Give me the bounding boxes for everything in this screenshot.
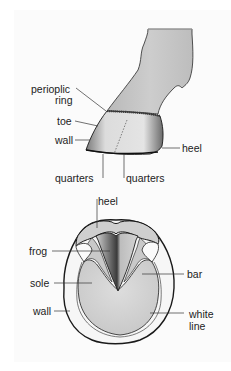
- label-bar: bar: [187, 268, 203, 280]
- label-line: line: [189, 320, 206, 332]
- label-heel-side: heel: [182, 142, 202, 154]
- label-wall-sole: wall: [32, 305, 51, 317]
- label-frog: frog: [29, 245, 47, 257]
- label-white: white: [188, 308, 214, 320]
- label-sole: sole: [30, 277, 49, 289]
- label-toe: toe: [57, 115, 72, 127]
- label-ring: ring: [55, 94, 73, 106]
- label-quarters-right: quarters: [126, 172, 165, 184]
- hoof-side-view: perioplic ring toe wall heel quarters qu…: [31, 29, 202, 184]
- hoof-sole-view: heel frog sole bar wall white line: [29, 195, 214, 344]
- label-quarters-left: quarters: [55, 172, 94, 184]
- hoof-diagram: perioplic ring toe wall heel quarters qu…: [0, 0, 231, 371]
- label-wall-side: wall: [54, 134, 73, 146]
- label-heel-sole: heel: [98, 195, 118, 207]
- hoof-capsule: [86, 111, 163, 154]
- pastern-leg: [107, 29, 193, 114]
